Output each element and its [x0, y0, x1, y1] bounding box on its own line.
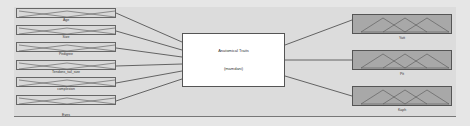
output-label: Pit: [352, 72, 452, 76]
system-name: Anatomical Traits: [183, 48, 284, 53]
input-label: complexion: [16, 87, 116, 91]
input-label: Pedigree: [16, 52, 116, 56]
membership-function-icon: [353, 15, 453, 35]
input-mf-box-tendons[interactable]: [16, 60, 116, 70]
output-mf-box-yatt[interactable]: [352, 14, 452, 34]
system-type: (mamdani): [183, 66, 284, 71]
input-mf-box-age[interactable]: [16, 8, 116, 18]
output-mf-box-kaph[interactable]: [352, 86, 452, 106]
membership-function-icon: [353, 51, 453, 71]
membership-function-icon: [17, 96, 117, 106]
input-mf-box-complexion[interactable]: [16, 77, 116, 87]
input-label: Age: [16, 18, 116, 22]
output-label: Kaph: [352, 108, 452, 112]
input-mf-box-eyes[interactable]: [16, 95, 116, 105]
fis-system-box[interactable]: Anatomical Traits (mamdani): [182, 33, 285, 87]
input-label: Size: [16, 35, 116, 39]
divider: [14, 116, 456, 117]
input-label: Tendons_tail_size: [16, 70, 116, 74]
output-label: Yatt: [352, 36, 452, 40]
output-mf-box-pit[interactable]: [352, 50, 452, 70]
membership-function-icon: [353, 87, 453, 107]
input-mf-box-size[interactable]: [16, 25, 116, 35]
input-mf-box-pedigree[interactable]: [16, 42, 116, 52]
